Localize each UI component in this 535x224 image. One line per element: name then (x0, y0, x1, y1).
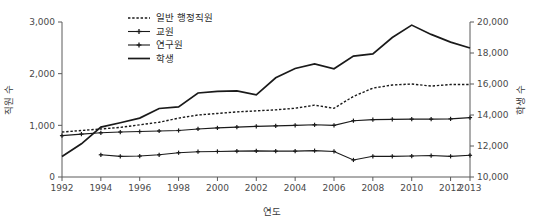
x-tick-label: 1994 (89, 183, 112, 193)
y2-axis-title: 학생 수 (515, 85, 526, 115)
data-point-marker (429, 153, 433, 157)
data-point-marker (157, 129, 161, 133)
data-point-marker (60, 134, 64, 138)
data-point-marker (235, 149, 239, 153)
legend-label: 일반 행정직원 (156, 12, 213, 23)
data-point-marker (138, 129, 142, 133)
y-tick-label: 0 (49, 172, 55, 182)
data-point-marker (138, 154, 142, 158)
data-point-marker (312, 149, 316, 153)
legend-label: 학생 (156, 53, 174, 64)
data-point-marker (118, 130, 122, 134)
data-point-marker (351, 158, 355, 162)
x-tick-label: 2013 (459, 183, 482, 193)
data-point-marker (390, 117, 394, 121)
data-point-marker (254, 124, 258, 128)
y2-tick-label: 14,000 (477, 110, 509, 120)
data-point-marker (332, 123, 336, 127)
data-point-marker (176, 151, 180, 155)
chart-container: 01,0002,0003,000 10,00012,00014,00016,00… (0, 0, 535, 224)
y2-tick-label: 20,000 (477, 17, 509, 27)
y-tick-label: 2,000 (29, 69, 55, 79)
x-axis-title: 연도 (263, 206, 281, 217)
y-axis-title: 직원 수 (3, 85, 14, 115)
y2-tick-label: 16,000 (477, 79, 509, 89)
legend-marker (137, 43, 142, 48)
series-2 (99, 149, 472, 163)
data-point-marker (293, 149, 297, 153)
legend-item: 일반 행정직원 (128, 12, 213, 23)
data-point-marker (196, 127, 200, 131)
data-point-marker (293, 123, 297, 127)
data-point-marker (390, 154, 394, 158)
series-line (62, 25, 470, 156)
axis-right: 10,00012,00014,00016,00018,00020,000 (470, 17, 509, 182)
data-point-marker (448, 154, 452, 158)
series-3 (62, 25, 470, 156)
data-point-marker (196, 150, 200, 154)
legend-item: 학생 (128, 53, 174, 64)
data-point-marker (410, 154, 414, 158)
data-point-marker (215, 149, 219, 153)
y2-tick-label: 10,000 (477, 172, 509, 182)
legend-marker (137, 29, 142, 34)
legend-label: 교원 (156, 26, 174, 37)
data-point-marker (99, 131, 103, 135)
series-line (62, 84, 470, 132)
data-point-marker (429, 117, 433, 121)
y2-tick-label: 18,000 (477, 48, 509, 58)
x-tick-label: 2002 (245, 183, 268, 193)
data-point-marker (235, 125, 239, 129)
x-tick-label: 2008 (361, 183, 384, 193)
chart-legend: 일반 행정직원교원연구원학생 (128, 12, 213, 64)
data-point-marker (215, 126, 219, 130)
data-point-marker (176, 128, 180, 132)
line-chart: 01,0002,0003,000 10,00012,00014,00016,00… (0, 0, 535, 224)
x-tick-label: 2000 (206, 183, 229, 193)
data-point-marker (371, 154, 375, 158)
legend-item: 연구원 (128, 39, 183, 50)
y-tick-label: 1,000 (29, 121, 55, 131)
legend-label: 연구원 (156, 39, 183, 50)
data-point-marker (410, 117, 414, 121)
data-point-marker (157, 153, 161, 157)
x-tick-label: 1998 (167, 183, 190, 193)
series-group (60, 25, 472, 162)
data-point-marker (371, 118, 375, 122)
x-tick-label: 2004 (284, 183, 307, 193)
data-point-marker (448, 117, 452, 121)
x-tick-label: 2010 (400, 183, 423, 193)
axis-left: 01,0002,0003,000 (29, 17, 62, 182)
y-tick-label: 3,000 (29, 17, 55, 27)
data-point-marker (99, 153, 103, 157)
legend-item: 교원 (128, 26, 174, 37)
x-tick-label: 2006 (323, 183, 346, 193)
series-line (101, 151, 470, 160)
series-line (62, 118, 470, 136)
data-point-marker (79, 132, 83, 136)
data-point-marker (332, 149, 336, 153)
data-point-marker (254, 149, 258, 153)
y2-tick-label: 12,000 (477, 141, 509, 151)
data-point-marker (468, 115, 472, 119)
x-tick-label: 1992 (51, 183, 74, 193)
data-point-marker (118, 154, 122, 158)
data-point-marker (312, 123, 316, 127)
series-0 (62, 84, 470, 132)
data-point-marker (274, 149, 278, 153)
data-point-marker (351, 119, 355, 123)
axis-bottom: 1992199419961998200020022004200620082010… (51, 177, 482, 193)
data-point-marker (274, 124, 278, 128)
x-tick-label: 1996 (128, 183, 151, 193)
data-point-marker (468, 153, 472, 157)
